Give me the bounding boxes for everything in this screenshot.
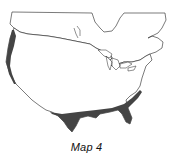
map-figure bbox=[0, 0, 173, 140]
map-caption: Map 4 bbox=[0, 141, 173, 153]
